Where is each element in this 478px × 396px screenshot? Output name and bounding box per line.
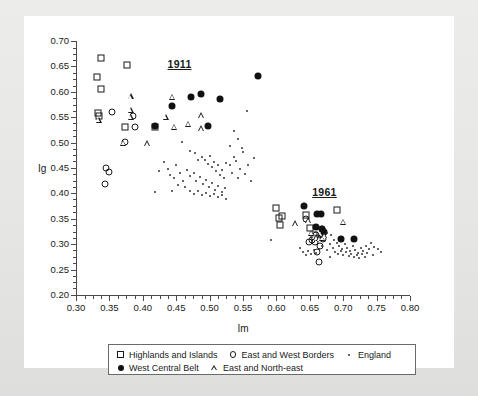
x-tick-label: 0.55 [234, 303, 253, 313]
data-point [352, 245, 354, 247]
data-point [163, 161, 165, 163]
data-point [198, 125, 204, 131]
data-point [350, 253, 352, 255]
y-tick-minor [73, 136, 76, 137]
x-tick-minor [251, 296, 252, 299]
data-point [360, 247, 362, 249]
data-point [342, 254, 344, 256]
data-point [350, 236, 357, 243]
data-point [198, 112, 204, 118]
y-tick-major [71, 168, 76, 169]
x-tick-major [176, 296, 177, 301]
legend-row: Highlands and IslandsEast and West Borde… [115, 348, 409, 361]
y-tick-minor [73, 199, 76, 200]
y-tick-minor [73, 276, 76, 277]
data-point [201, 156, 203, 158]
data-point [208, 186, 210, 188]
x-tick-minor [268, 296, 269, 299]
legend-label: Highlands and Islands [129, 350, 218, 360]
data-point [345, 251, 347, 253]
y-tick-major [71, 270, 76, 271]
data-point [349, 250, 351, 252]
x-tick-minor [202, 296, 203, 299]
data-point [211, 166, 213, 168]
data-point [207, 163, 209, 165]
x-tick-major [377, 296, 378, 301]
data-point [300, 202, 307, 209]
x-tick-label: 0.70 [334, 303, 353, 313]
data-point [128, 93, 134, 99]
data-point [270, 239, 272, 241]
data-point [213, 193, 215, 195]
x-tick-minor [226, 296, 227, 299]
data-point [253, 157, 255, 159]
data-point [158, 170, 160, 172]
data-point [223, 177, 225, 179]
data-point [97, 85, 104, 92]
data-point [292, 220, 298, 226]
data-point [334, 206, 341, 213]
y-tick-label: 0.45 [51, 163, 70, 173]
y-tick-major [71, 143, 76, 144]
y-tick-minor [73, 149, 76, 150]
data-point [122, 124, 129, 131]
data-point [321, 245, 323, 247]
data-point [250, 180, 252, 182]
data-point [171, 124, 177, 130]
data-point [334, 251, 336, 253]
data-point [247, 164, 249, 166]
x-tick-minor [385, 296, 386, 299]
data-point [370, 242, 372, 244]
legend-item[interactable]: Highlands and Islands [115, 349, 218, 360]
data-point [326, 249, 328, 251]
x-tick-minor [118, 296, 119, 299]
data-point [209, 195, 211, 197]
era-label-1961: 1961 [312, 186, 337, 198]
data-point [305, 254, 307, 256]
legend-item[interactable]: East and West Borders [228, 349, 334, 360]
data-point [219, 174, 221, 176]
legend-item[interactable]: England [344, 349, 391, 360]
data-point [329, 256, 331, 258]
data-point [364, 256, 366, 258]
data-point [187, 93, 194, 100]
data-point [215, 170, 217, 172]
x-tick-minor [160, 296, 161, 299]
data-point [366, 252, 368, 254]
x-tick-major [243, 296, 244, 301]
x-tick-minor [401, 296, 402, 299]
legend-item[interactable]: East and North-east [209, 362, 303, 373]
x-tick-minor [335, 296, 336, 299]
x-tick-minor [151, 296, 152, 299]
x-tick-minor [193, 296, 194, 299]
data-point [201, 194, 203, 196]
y-tick-minor [73, 187, 76, 188]
x-tick-minor [393, 296, 394, 299]
data-point [120, 140, 126, 146]
y-tick-major [71, 244, 76, 245]
data-point [204, 159, 206, 161]
data-point [123, 62, 130, 69]
data-point [332, 247, 334, 249]
x-tick-label: 0.80 [401, 303, 420, 313]
legend-item[interactable]: West Central Belt [115, 362, 199, 373]
legend-row: West Central BeltEast and North-east [115, 361, 409, 374]
data-point [197, 90, 204, 97]
x-tick-minor [301, 296, 302, 299]
x-tick-label: 0.50 [200, 303, 219, 313]
data-point [315, 252, 317, 254]
data-point [323, 240, 325, 242]
data-point [305, 217, 311, 223]
data-point [358, 257, 360, 259]
y-tick-label: 0.25 [51, 265, 70, 275]
data-point [189, 150, 191, 152]
data-point [193, 193, 195, 195]
y-tick-major [71, 117, 76, 118]
x-tick-minor [368, 296, 369, 299]
x-tick-label: 0.65 [301, 303, 320, 313]
screenshot-page: 0.700.650.600.550.500.450.400.350.300.25… [0, 0, 478, 396]
data-point [377, 248, 379, 250]
x-tick-label: 0.60 [267, 303, 286, 313]
x-tick-label: 0.35 [100, 303, 119, 313]
data-point [197, 190, 199, 192]
